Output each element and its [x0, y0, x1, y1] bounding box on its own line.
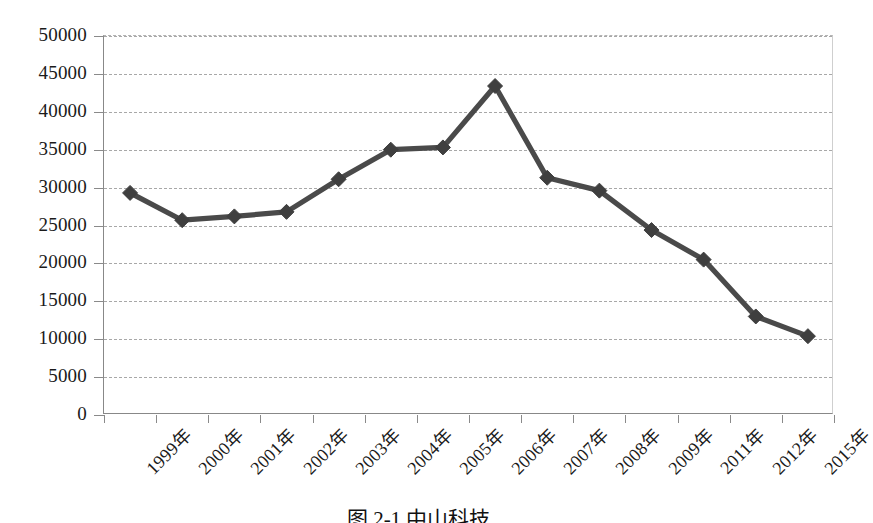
y-axis-tick — [94, 226, 104, 227]
y-axis-tick-label: 30000 — [0, 187, 87, 206]
y-axis-tick-label: 15000 — [0, 300, 87, 319]
x-axis-tick-label: 2003年 — [352, 426, 404, 478]
y-axis-tick-label: 25000 — [0, 225, 87, 244]
y-axis-tick — [94, 377, 104, 378]
y-axis-tick-label: 45000 — [0, 73, 87, 92]
y-axis-tick-label-text: 40000 — [0, 101, 87, 120]
x-axis-tick-label: 2009年 — [665, 426, 717, 478]
y-axis-tick-label: 5000 — [0, 376, 87, 395]
y-axis-tick-label-text: 20000 — [0, 252, 87, 271]
x-axis-tick-label: 2001年 — [247, 426, 299, 478]
y-axis-tick-label-text: 25000 — [0, 215, 87, 234]
y-axis-tick — [94, 112, 104, 113]
y-axis-tick-label-text: 50000 — [0, 25, 87, 44]
y-axis-tick — [94, 415, 104, 416]
y-axis-tick-label: 20000 — [0, 262, 87, 281]
x-axis-tick-label: 2000年 — [195, 426, 247, 478]
x-axis-tick — [521, 415, 522, 423]
x-axis-tick — [678, 415, 679, 423]
x-axis-tick-label: 2011年 — [717, 426, 769, 478]
y-axis-tick-label-text: 10000 — [0, 328, 87, 347]
x-axis-tick — [625, 415, 626, 423]
y-axis-tick-label: 10000 — [0, 338, 87, 357]
x-axis-tick — [313, 415, 314, 423]
y-axis-tick-label-text: 30000 — [0, 177, 87, 196]
x-axis-tick-label: 2008年 — [612, 426, 664, 478]
y-axis-tick-label-text: 0 — [0, 404, 87, 423]
y-axis-tick — [94, 36, 104, 37]
x-axis-tick — [156, 415, 157, 423]
y-axis-tick-label-text: 5000 — [0, 366, 87, 385]
x-axis-tick — [104, 415, 105, 423]
x-axis-tick-label: 2004年 — [404, 426, 456, 478]
y-axis-tick — [94, 74, 104, 75]
x-axis-tick-label: 2007年 — [560, 426, 612, 478]
y-axis-tick-label: 50000 — [0, 35, 87, 54]
y-axis-tick-label-text: 45000 — [0, 63, 87, 82]
y-axis-tick-label: 35000 — [0, 149, 87, 168]
y-axis-tick — [94, 150, 104, 151]
x-axis-tick — [417, 415, 418, 423]
x-axis-tick-label: 2002年 — [300, 426, 352, 478]
y-axis-tick-label: 0 — [0, 414, 87, 433]
x-axis-tick — [208, 415, 209, 423]
x-axis-tick — [834, 415, 835, 423]
line-series-svg — [104, 36, 834, 415]
x-axis-tick-label: 2012年 — [769, 426, 821, 478]
x-axis-tick — [365, 415, 366, 423]
y-axis-tick — [94, 263, 104, 264]
x-axis-tick — [782, 415, 783, 423]
x-axis-tick — [730, 415, 731, 423]
y-axis-tick — [94, 301, 104, 302]
x-axis-tick — [469, 415, 470, 423]
x-axis-tick — [573, 415, 574, 423]
data-point-marker — [800, 329, 815, 344]
x-axis-tick-label: 2015年 — [821, 426, 873, 478]
y-axis-tick-label: 40000 — [0, 111, 87, 130]
y-axis-tick-label-text: 35000 — [0, 139, 87, 158]
data-point-marker — [227, 209, 242, 224]
x-axis-tick-label: 2006年 — [508, 426, 560, 478]
figure-caption: 图 2-1 中山科技... — [0, 506, 853, 523]
x-axis-tick-label: 2005年 — [456, 426, 508, 478]
plot-area — [103, 35, 833, 414]
x-axis-tick-label: 1999年 — [143, 426, 195, 478]
y-axis-tick — [94, 339, 104, 340]
y-axis-tick-label-text: 15000 — [0, 290, 87, 309]
y-axis-tick — [94, 188, 104, 189]
x-axis-tick — [260, 415, 261, 423]
